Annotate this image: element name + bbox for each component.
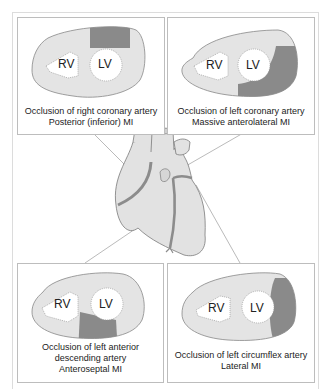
caption-line-1: Occlusion of left anterior [18,342,163,353]
heart-illustration [115,120,205,256]
panel-lcx-lateral-mi: RV LV Occlusion of left circumflex arter… [167,263,315,383]
caption-line-2: Posterior (inferior) MI [18,117,164,128]
caption-line-1: Occlusion of right coronary artery [18,106,164,117]
panel-lad-anteroseptal-mi: RV LV Occlusion of left anterior descend… [17,263,164,383]
lv-label: LV [246,58,260,72]
rv-label: RV [206,58,222,72]
lv-label: LV [98,57,112,71]
caption: Occlusion of right coronary artery Poste… [18,106,164,128]
caption-line-2: Lateral MI [168,361,314,372]
panel-lca-anterolateral-mi: RV LV Occlusion of left coronary artery … [167,17,315,135]
infarct-zone [90,18,130,48]
lv-label: LV [250,301,264,315]
lv-label: LV [99,297,113,311]
caption-line-2: descending artery [18,353,163,364]
rv-label: RV [208,301,224,315]
rv-label: RV [58,57,74,71]
caption-line-1: Occlusion of left circumflex artery [168,350,314,361]
caption: Occlusion of left coronary artery Massiv… [168,106,314,128]
caption-line-1: Occlusion of left coronary artery [168,106,314,117]
caption: Occlusion of left anterior descending ar… [18,342,163,375]
caption-line-3: Anteroseptal MI [18,364,163,375]
caption-line-2: Massive anterolateral MI [168,117,314,128]
rv-label: RV [54,297,70,311]
caption: Occlusion of left circumflex artery Late… [168,350,314,372]
panel-rca-posterior-mi: RV LV Occlusion of right coronary artery… [17,17,165,135]
infarct-zone [270,278,308,344]
